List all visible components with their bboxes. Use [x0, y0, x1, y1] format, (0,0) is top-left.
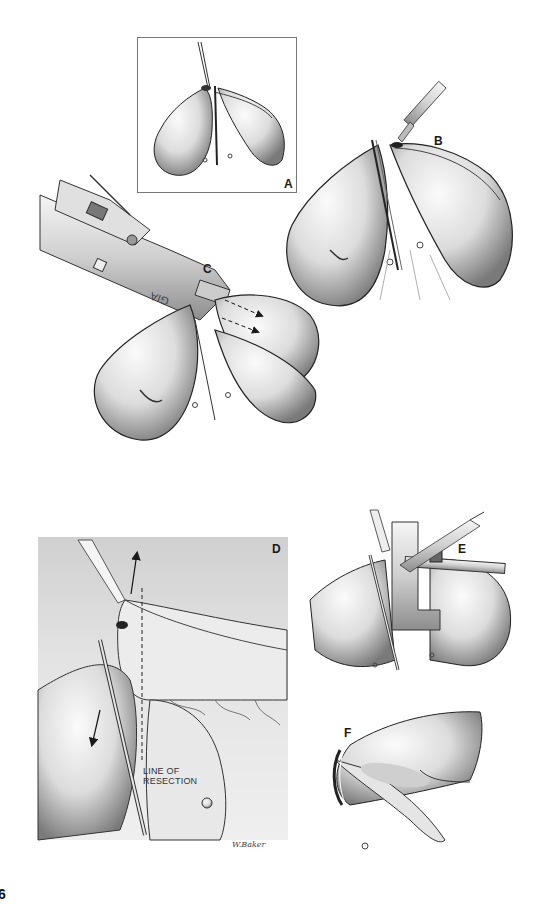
panel-b-drawing — [287, 81, 513, 305]
panel-f-drawing — [334, 712, 482, 849]
panel-label-b: B — [434, 134, 443, 148]
page-number: 6 — [0, 886, 6, 902]
panel-label-e: E — [458, 542, 466, 556]
line-of-resection-line-2: RESECTION — [143, 776, 197, 786]
artist-signature: W.Baker — [232, 840, 265, 849]
panel-e-drawing — [310, 510, 511, 670]
panel-c-drawing — [40, 175, 319, 440]
panel-label-a: A — [284, 177, 293, 191]
line-of-resection-line-1: LINE OF — [143, 766, 197, 776]
panel-label-f: F — [344, 726, 351, 740]
line-of-resection-label: LINE OF RESECTION — [143, 766, 197, 786]
panel-a-drawing — [154, 42, 284, 175]
surgical-illustration — [0, 0, 544, 904]
panel-label-c: C — [203, 262, 212, 276]
panel-label-d: D — [272, 542, 281, 556]
panel-d-drawing — [38, 540, 287, 840]
